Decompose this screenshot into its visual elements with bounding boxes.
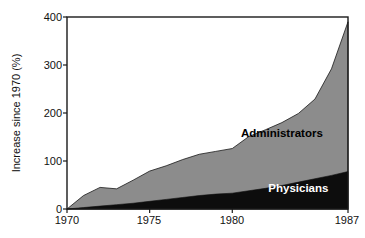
x-tick-label-1975: 1975	[137, 214, 161, 226]
y-tick-label-100: 100	[44, 155, 62, 167]
series-annotation-administrators: Administrators	[241, 127, 323, 139]
y-tick-label-200: 200	[44, 107, 62, 119]
y-tick-label-300: 300	[44, 59, 62, 71]
y-tick-label-400: 400	[44, 11, 62, 23]
x-tick-label-1980: 1980	[220, 214, 244, 226]
series-annotation-physicians: Physicians	[268, 182, 328, 194]
x-tick-label-1987: 1987	[335, 214, 359, 226]
x-tick-label-1970: 1970	[55, 214, 79, 226]
y-axis-title: Increase since 1970 (%)	[10, 54, 22, 173]
area-chart: 0 100 200 300 400 1970 1975 1980 1987 In…	[0, 0, 365, 238]
chart-figure: 0 100 200 300 400 1970 1975 1980 1987 In…	[0, 0, 365, 238]
